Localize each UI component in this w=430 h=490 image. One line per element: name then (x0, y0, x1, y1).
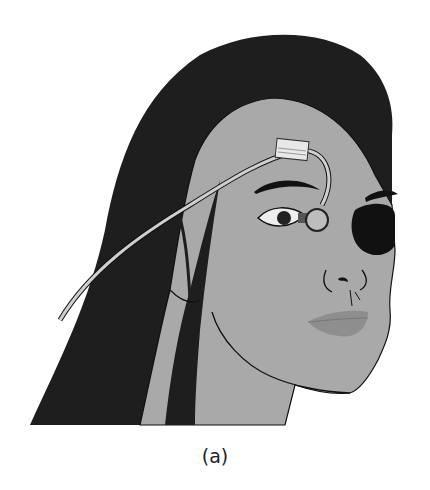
illustration (0, 0, 430, 430)
figure-caption: (a) (0, 445, 430, 467)
iris (277, 211, 291, 225)
device-lens (306, 209, 328, 231)
